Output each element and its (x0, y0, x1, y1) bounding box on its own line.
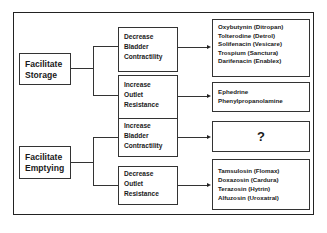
connector (93, 137, 118, 138)
node-label: Outlet (124, 179, 173, 189)
connector (93, 95, 118, 96)
node-label: Resistance (124, 189, 173, 199)
drug-item: Doxazosin (Cardura) (218, 175, 307, 184)
arrowhead-icon (207, 45, 211, 49)
node-label: Decrease (124, 32, 173, 42)
arrow-line (178, 96, 208, 97)
arrowhead-icon (207, 94, 211, 98)
drug-item: Solifenacin (Vesicare) (218, 40, 307, 49)
drug-item: Ephedrine (218, 88, 307, 97)
drug-item: Tamsulosin (Flomax) (218, 166, 307, 175)
drug-item: Oxybutynin (Ditropan) (218, 23, 307, 32)
node-label: Outlet (124, 90, 173, 100)
arrow-line (178, 137, 208, 138)
arrowhead-icon (207, 135, 211, 139)
connector (71, 68, 94, 69)
drug-item: Tolterodine (Detrol) (218, 32, 307, 41)
drug-item: Phenylpropanolamine (218, 97, 307, 106)
node-label: Emptying (25, 163, 66, 174)
drug-list-antimuscarinics: Oxybutynin (Ditropan) Tolterodine (Detro… (212, 19, 310, 77)
drug-list-alpha-agonists: Ephedrine Phenylpropanolamine (212, 82, 310, 112)
node-decrease-bladder-contractility: Decrease Bladder Contractility (118, 27, 178, 72)
node-label: Facilitate (25, 59, 66, 70)
node-facilitate-storage: Facilitate Storage (19, 53, 71, 85)
connector (93, 46, 118, 47)
arrow-line (178, 185, 208, 186)
drug-item: Darifenacin (Enablex) (218, 57, 307, 66)
connector (71, 162, 94, 163)
node-label: Storage (25, 70, 66, 81)
node-label: Increase (124, 80, 173, 90)
drug-item: Trospium (Sanctura) (218, 49, 307, 58)
drug-item: Terazosin (Hytrin) (218, 184, 307, 193)
arrow-line (178, 47, 208, 48)
drug-list-alpha-blockers: Tamsulosin (Flomax) Doxazosin (Cardura) … (212, 159, 310, 210)
drug-item: Alfuzosin (Uroxatral) (218, 193, 307, 202)
connector (93, 185, 118, 186)
node-label: Bladder (124, 42, 173, 52)
arrowhead-icon (207, 183, 211, 187)
node-label: Contractility (124, 141, 173, 151)
node-facilitate-emptying: Facilitate Emptying (19, 146, 71, 179)
node-label: Increase (124, 121, 173, 131)
connector (93, 46, 94, 96)
node-label: Decrease (124, 169, 173, 179)
node-label: Contractility (124, 52, 173, 62)
node-decrease-outlet-resistance: Decrease Outlet Resistance (118, 166, 178, 205)
connector (93, 137, 94, 186)
node-label: Facilitate (25, 152, 66, 163)
node-increase-outlet-resistance: Increase Outlet Resistance (118, 75, 178, 119)
unknown-drug-box: ? (212, 121, 310, 152)
node-increase-bladder-contractility: Increase Bladder Contractility (118, 118, 178, 157)
node-label: Resistance (124, 100, 173, 110)
question-mark: ? (257, 129, 265, 144)
node-label: Bladder (124, 131, 173, 141)
